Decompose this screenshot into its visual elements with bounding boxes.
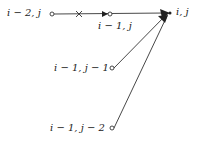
- label-im2j: i − 2, j: [7, 7, 41, 18]
- label-ij: i, j: [176, 6, 189, 17]
- node-ij: [169, 12, 172, 15]
- node-im2j: [50, 12, 54, 16]
- label-im1jm1: i − 1, j − 1: [54, 62, 109, 73]
- edge-im1jm2: [114, 16, 167, 128]
- node-im1j: [108, 12, 112, 16]
- arrowhead-icon: [102, 11, 108, 17]
- label-im1j: i − 1, j: [98, 20, 132, 31]
- label-im1jm2: i − 1, j − 2: [50, 122, 105, 133]
- node-im1jm1: [110, 66, 114, 70]
- node-im1jm2: [110, 126, 114, 130]
